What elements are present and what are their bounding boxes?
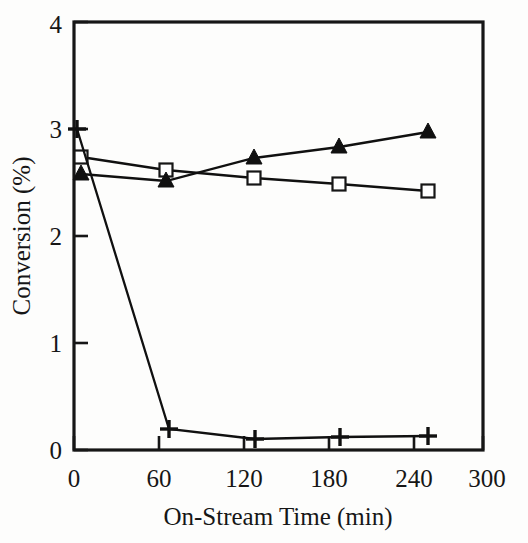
x-tick-label-240: 240 [395, 465, 433, 492]
data-point-marker [248, 172, 261, 185]
chart-figure: 0 60 120 180 240 300 0 1 2 3 4 On-Stream… [0, 0, 528, 543]
data-point-marker [422, 185, 435, 198]
y-axis-title: Conversion (%) [8, 157, 36, 316]
y-tick-label-1: 1 [50, 330, 63, 357]
x-tick-label-180: 180 [310, 465, 348, 492]
chart-background [0, 0, 528, 543]
y-tick-label-3: 3 [50, 116, 63, 143]
x-axis-title: On-Stream Time (min) [163, 503, 392, 531]
y-tick-label-2: 2 [50, 223, 63, 250]
x-tick-label-120: 120 [225, 465, 263, 492]
x-tick-label-60: 60 [147, 465, 172, 492]
y-tick-label-0: 0 [50, 437, 63, 464]
x-tick-label-0: 0 [68, 465, 81, 492]
x-tick-label-300: 300 [468, 465, 506, 492]
conversion-vs-time-line-chart: 0 60 120 180 240 300 0 1 2 3 4 On-Stream… [0, 0, 528, 543]
data-point-marker [333, 178, 346, 191]
y-tick-label-4: 4 [50, 11, 63, 38]
